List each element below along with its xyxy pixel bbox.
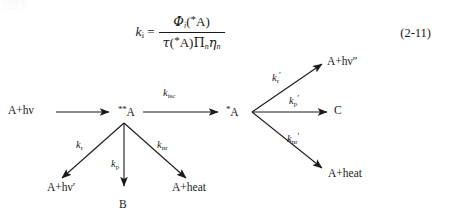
product-symbol: Π [193,35,204,50]
rate-isc-sub: isc [168,92,176,100]
node-emission-right: A+hν″ [327,56,358,68]
fraction-numerator: Φi(*A) [169,13,213,32]
eta-symbol: η [209,35,217,50]
equation-left-hand-side: ki [135,24,144,40]
node-upper-excited: **A [118,105,135,119]
rate-r-sub: r [81,144,83,152]
tau-symbol: τ [163,35,170,50]
rate-label-p-prime: kp′ [289,94,299,108]
node-heat-left: A+heat [172,182,206,194]
node-ground-excitation: A+hν [8,105,34,117]
equation-block: ki = Φi(*A) τ(*A)Πnηn (2-11) [0,8,449,56]
rate-r-prime-mark: ′ [279,70,281,80]
equals-sign: = [147,24,154,40]
numerator-close-paren: ) [205,14,209,29]
arrow-knr [124,123,186,178]
equation-fraction: Φi(*A) τ(*A)Πnηn [159,13,225,52]
node-product-b: B [119,199,127,211]
node-lower-excited: *A [226,105,239,119]
rate-p-sub: p [116,163,120,171]
node-product-b-text: B [119,198,127,210]
node-heat-left-text: A+heat [172,181,206,193]
upper-excited-species: A [126,106,134,118]
fraction-denominator: τ(*A)Πnηn [159,33,225,52]
phi-symbol: Φ [173,14,184,29]
scheme-arrows [0,56,449,220]
rate-label-r-prime: kr′ [272,71,281,85]
equation-k-subscript: i [142,30,145,40]
rate-p-prime-mark: ′ [297,93,299,103]
rate-label-p: kp [111,159,119,171]
eta-subscript: n [217,42,221,51]
node-ground-excitation-text: A+hν [8,104,34,116]
rate-label-r: kr [76,140,83,152]
node-emission-right-text: A+hν″ [327,55,358,67]
node-product-c: C [334,105,342,117]
rate-label-nr-prime: knr′ [287,132,299,146]
node-fluorescence-left-text: A+hν′ [47,181,75,193]
node-product-c-text: C [334,104,342,116]
equation-number: (2-11) [400,26,431,41]
rate-label-nr: knr [157,140,168,152]
denominator-species: A [180,35,189,50]
rate-nr-prime-mark: ′ [298,131,300,141]
node-heat-right-text: A+heat [328,167,362,179]
node-fluorescence-left: A+hν′ [47,182,75,194]
lower-excited-species: A [230,106,238,118]
reaction-scheme: A+hν **A *A A+hν′ B A+heat A+hν″ C A+hea… [0,56,449,220]
equation-expression: ki = Φi(*A) τ(*A)Πnηn [0,8,360,56]
arrow-kr-prime [252,64,322,112]
node-heat-right: A+heat [328,168,362,180]
rate-nr-sub: nr [162,144,168,152]
rate-label-isc: kisc [163,88,175,100]
